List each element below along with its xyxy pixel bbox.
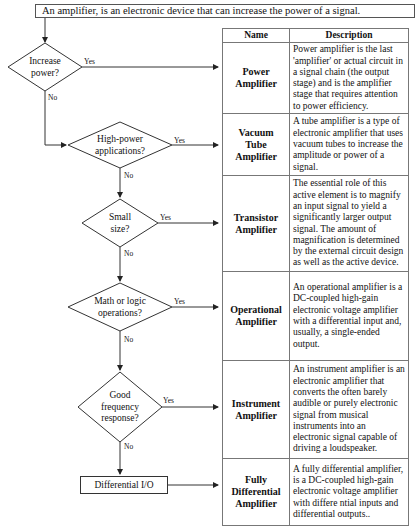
decision-increase-power-label: Increase power? (29, 56, 61, 79)
name-line: Vacuum (226, 127, 286, 139)
header-description: Description (290, 29, 409, 43)
yes-label: Yes (160, 214, 171, 222)
amplifier-name: Fully Differential Amplifier (223, 459, 290, 526)
yes-label: Yes (163, 397, 174, 405)
decision-text-line: applications? (95, 145, 145, 157)
amplifier-description: A fully differential amplifier, is a DC-… (290, 459, 409, 526)
name-line: Amplifier (226, 224, 286, 236)
table-row: Transistor Amplifier The essential role … (223, 176, 409, 272)
decision-math-logic-label: Math or logic operations? (94, 296, 146, 319)
flowchart-diagram: An amplifier, is an electronic device th… (0, 0, 418, 529)
name-line: Amplifier (226, 151, 286, 163)
table-row: Instrument Amplifier An instrument ampli… (223, 361, 409, 459)
yes-label: Yes (174, 137, 185, 145)
decision-frequency-response-label: Good frequency response? (101, 390, 139, 425)
differential-io-box: Differential I/O (80, 476, 168, 494)
name-line: Instrument (226, 398, 286, 410)
decision-small-size-label: Small size? (109, 212, 131, 235)
no-label: No (124, 336, 133, 344)
decision-text-line: Increase (29, 56, 61, 68)
no-label: No (124, 172, 133, 180)
name-line: Operational (226, 304, 286, 316)
amplifier-description: The essential role of this active elemen… (290, 176, 409, 272)
name-line: Transistor (226, 212, 286, 224)
name-line: Tube (226, 139, 286, 151)
name-line: Amplifier (226, 78, 286, 90)
amplifier-name: Vacuum Tube Amplifier (223, 114, 290, 176)
name-line: Amplifier (226, 498, 286, 510)
table-header-row: Name Description (223, 29, 409, 43)
amplifier-description: A tube amplifier is a type of electronic… (290, 114, 409, 176)
decision-text-line: operations? (94, 307, 146, 319)
decision-text-line: response? (101, 413, 139, 425)
name-line: Amplifier (226, 410, 286, 422)
decision-text-line: Math or logic (94, 296, 146, 308)
decision-text-line: power? (29, 67, 61, 79)
decision-high-power-label: High-power applications? (95, 134, 145, 157)
header-name: Name (223, 29, 290, 43)
yes-label: Yes (84, 58, 95, 66)
amplifier-table: Name Description Power Amplifier Power a… (222, 28, 409, 526)
amplifier-name: Transistor Amplifier (223, 176, 290, 272)
decision-text-line: size? (109, 223, 131, 235)
table-row: Operational Amplifier An operational amp… (223, 272, 409, 361)
decision-text-line: Good (101, 390, 139, 402)
table-row: Power Amplifier Power amplifier is the l… (223, 43, 409, 114)
no-label: No (124, 443, 133, 451)
table-row: Fully Differential Amplifier A fully dif… (223, 459, 409, 526)
no-label: No (124, 250, 133, 258)
amplifier-name: Power Amplifier (223, 43, 290, 114)
title-box: An amplifier, is an electronic device th… (35, 4, 415, 18)
decision-text-line: High-power (95, 134, 145, 146)
table-row: Vacuum Tube Amplifier A tube amplifier i… (223, 114, 409, 176)
name-line: Fully (226, 474, 286, 486)
amplifier-description: Power amplifier is the last 'amplifier' … (290, 43, 409, 114)
yes-label: Yes (174, 298, 185, 306)
decision-text-line: Small (109, 212, 131, 224)
name-line: Power (226, 66, 286, 78)
name-line: Differential (226, 486, 286, 498)
no-label: No (48, 94, 57, 102)
amplifier-description: An instrument amplifier is an electronic… (290, 361, 409, 459)
name-line: Amplifier (226, 316, 286, 328)
amplifier-description: An operational amplifier is a DC-coupled… (290, 272, 409, 361)
amplifier-name: Instrument Amplifier (223, 361, 290, 459)
amplifier-name: Operational Amplifier (223, 272, 290, 361)
decision-text-line: frequency (101, 401, 139, 413)
